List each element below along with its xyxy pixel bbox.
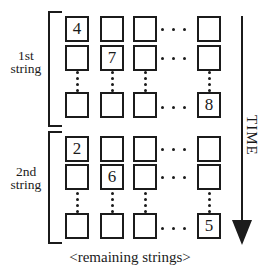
grid-cell <box>133 213 157 239</box>
string-sequence-diagram: 1st string 2nd string 4 7 8 2 6 5 <box>0 0 268 276</box>
label-2nd-string-line2: string <box>0 178 52 191</box>
vertical-ellipsis <box>144 192 147 213</box>
horizontal-ellipsis <box>161 148 186 151</box>
grid-cell <box>133 45 157 71</box>
grid-cell <box>65 164 89 190</box>
grid-cell <box>133 16 157 42</box>
grid-cell <box>100 16 124 42</box>
grid-cell: 4 <box>65 16 89 42</box>
vertical-ellipsis <box>111 192 114 213</box>
grid-cell <box>65 92 89 118</box>
grid-cell <box>197 45 221 71</box>
grid-cell: 8 <box>197 92 221 118</box>
vertical-ellipsis <box>76 192 79 213</box>
grid-cell <box>197 16 221 42</box>
vertical-ellipsis <box>76 71 79 92</box>
horizontal-ellipsis <box>161 227 186 230</box>
label-1st-string: 1st string <box>0 49 52 75</box>
grid-cell <box>197 136 221 162</box>
grid-cell <box>133 136 157 162</box>
horizontal-ellipsis <box>161 106 186 109</box>
grid-cell <box>133 164 157 190</box>
vertical-ellipsis <box>208 71 211 92</box>
grid-cell <box>65 213 89 239</box>
grid-cell: 5 <box>197 213 221 239</box>
horizontal-ellipsis <box>161 57 186 60</box>
grid-cell <box>100 92 124 118</box>
grid-cell <box>65 45 89 71</box>
grid-cell: 7 <box>100 45 124 71</box>
label-2nd-string: 2nd string <box>0 165 52 191</box>
grid-cell <box>100 213 124 239</box>
arrowhead-down-icon <box>232 220 252 245</box>
grid-cell <box>133 92 157 118</box>
vertical-ellipsis <box>144 71 147 92</box>
grid-cell: 2 <box>65 136 89 162</box>
vertical-ellipsis <box>111 71 114 92</box>
time-axis-label: TIME <box>243 115 260 156</box>
grid-cell <box>197 164 221 190</box>
caption-remaining-strings: <remaining strings> <box>25 249 235 266</box>
vertical-ellipsis <box>208 192 211 213</box>
horizontal-ellipsis <box>161 176 186 179</box>
grid-cell <box>100 136 124 162</box>
horizontal-ellipsis <box>161 28 186 31</box>
label-1st-string-line2: string <box>0 62 52 75</box>
grid-cell: 6 <box>100 164 124 190</box>
